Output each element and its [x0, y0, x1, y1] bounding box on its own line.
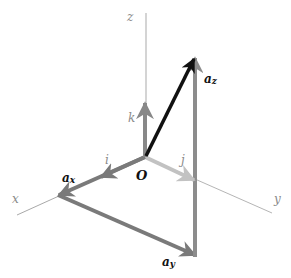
ay-label-base: a [162, 255, 170, 269]
az-label-base: a [204, 72, 212, 86]
ay-component-arrow [58, 195, 195, 255]
ax-label-base: a [62, 171, 70, 185]
i-unit-label: i [105, 153, 109, 167]
ay-label: ay [162, 255, 176, 269]
j-unit-label: j [178, 153, 185, 167]
j-unit-arrow [145, 157, 194, 180]
ay-label-sub: y [169, 259, 176, 269]
k-unit-label: k [128, 111, 135, 125]
origin-label: O [136, 168, 148, 183]
z-axis-label: z [126, 10, 134, 24]
az-label: az [204, 72, 218, 86]
component-vectors [58, 58, 195, 257]
ax-label-sub: x [69, 175, 76, 185]
y-axis-label: y [273, 192, 281, 206]
ax-label: ax [62, 171, 76, 185]
vector-components-diagram: z x y k i j O ax ay az [0, 0, 291, 278]
vector-a-arrow [146, 59, 194, 156]
x-axis-label: x [12, 192, 19, 206]
az-label-sub: z [211, 76, 218, 86]
